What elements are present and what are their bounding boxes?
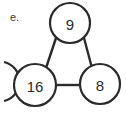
edge-top-to-bottom-right xyxy=(84,38,92,68)
node-value-top: 9 xyxy=(66,16,74,33)
node-value-bottom-left: 16 xyxy=(27,78,44,95)
edge-top-to-bottom-left xyxy=(46,38,56,68)
number-triangle-diagram: 9 16 8 e. xyxy=(0,0,126,119)
item-label: e. xyxy=(10,11,19,23)
node-value-bottom-right: 8 xyxy=(96,77,104,94)
figure-container: 9 16 8 e. xyxy=(0,0,126,119)
